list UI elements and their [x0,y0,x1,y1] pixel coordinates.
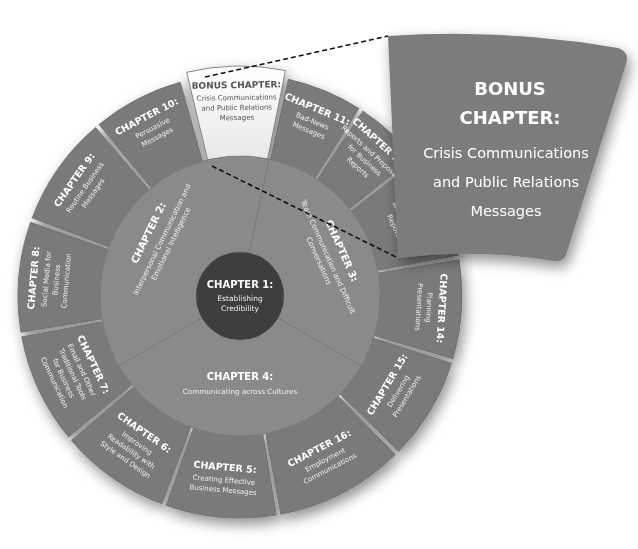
segment-subtitle: and Public Relations [201,103,272,112]
center-subtitle: Establishing [217,294,263,303]
center-title: CHAPTER 1: [207,279,274,290]
chapter-wheel-diagram: CHAPTER 10:PersuasiveMessagesBONUS CHAPT… [0,0,638,549]
segment-title: CHAPTER 4: [207,371,274,382]
center-subtitle: Credibility [221,304,260,313]
segment-subtitle: Messages [220,114,255,123]
callout-title: CHAPTER: [459,107,560,128]
bonus-chapter-callout[interactable]: BONUSCHAPTER:Crisis Communicationsand Pu… [388,34,627,261]
center-chapter[interactable]: CHAPTER 1:EstablishingCredibility [196,252,284,340]
segment-subtitle: Communicating across Cultures [183,387,298,396]
callout-subtitle: and Public Relations [433,174,579,190]
callout-subtitle: Crisis Communications [423,145,589,161]
segment-subtitle: Crisis Communications [196,93,276,102]
segment-title: BONUS CHAPTER: [191,79,281,91]
callout-title: BONUS [474,78,546,99]
outer-segment-2[interactable]: BONUS CHAPTER:Crisis Communicationsand P… [187,66,286,164]
callout-subtitle: Messages [470,203,541,219]
